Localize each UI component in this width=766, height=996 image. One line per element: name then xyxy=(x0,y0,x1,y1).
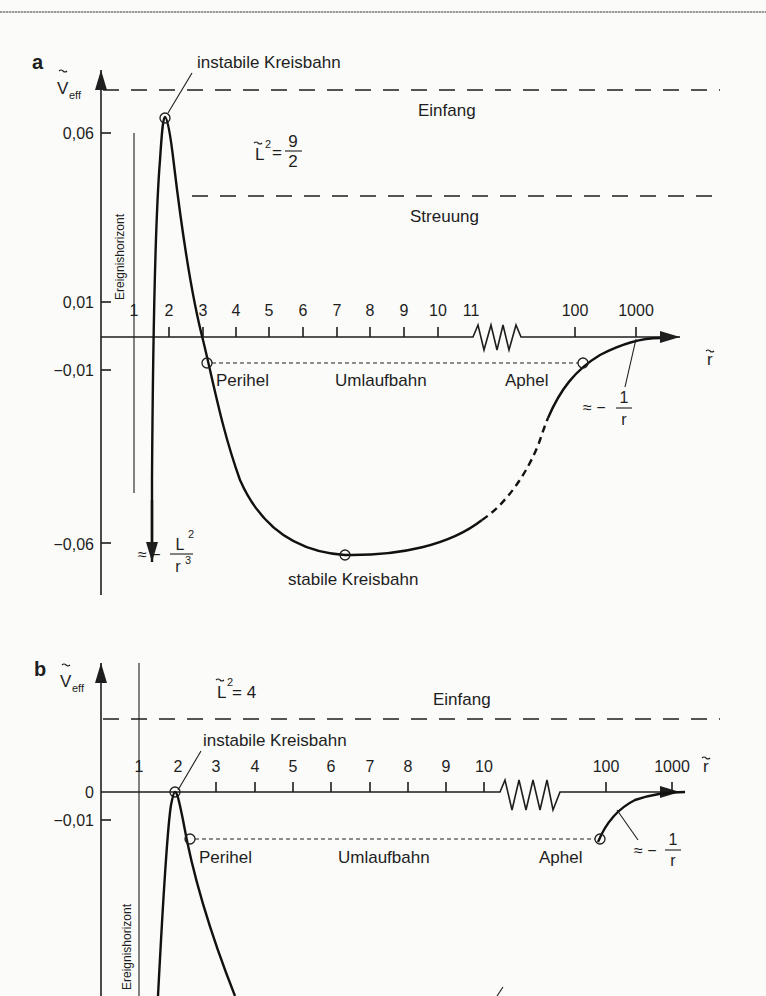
svg-text:0,01: 0,01 xyxy=(63,294,94,311)
panel-a-event-horizon-label: Ereignishorizont xyxy=(113,213,127,300)
svg-text:3: 3 xyxy=(185,554,191,566)
svg-text:r: r xyxy=(670,852,676,869)
svg-text:1: 1 xyxy=(620,389,629,406)
panel-a-aphel-label: Aphel xyxy=(505,371,548,390)
svg-text:6: 6 xyxy=(327,758,336,775)
panel-a-stable-orbit-label: stabile Kreisbahn xyxy=(288,570,418,589)
tilde-icon xyxy=(59,70,67,72)
svg-text:3: 3 xyxy=(199,302,208,319)
effective-potential-figure: a V eff r 0,06 0,01 −0,01 −0,06 xyxy=(0,0,766,996)
svg-text:−0,01: −0,01 xyxy=(54,362,95,379)
panel-b-capture-label: Einfang xyxy=(433,690,491,709)
svg-text:1000: 1000 xyxy=(618,302,654,319)
panel-b-potential-curve xyxy=(158,792,235,996)
panel-b-orbit-label: Umlaufbahn xyxy=(338,848,430,867)
panel-a-y-axis-label: V eff xyxy=(57,70,82,101)
panel-b-label: b xyxy=(34,658,46,680)
svg-text:V: V xyxy=(57,79,69,98)
panel-b-x-ticks: 1 2 3 4 5 6 7 8 9 10 100 1000 xyxy=(135,758,690,792)
svg-text:10: 10 xyxy=(429,302,447,319)
svg-text:6: 6 xyxy=(299,302,308,319)
svg-text:1000: 1000 xyxy=(654,758,690,775)
svg-text:8: 8 xyxy=(404,758,413,775)
panel-b-y-ticks: 0 −0,01 xyxy=(54,784,111,829)
svg-text:4: 4 xyxy=(251,758,260,775)
panel-a-capture-label: Einfang xyxy=(418,101,476,120)
panel-b-aphel-label: Aphel xyxy=(539,848,582,867)
svg-text:≈ −: ≈ − xyxy=(138,546,161,563)
svg-text:−0,01: −0,01 xyxy=(54,812,95,829)
svg-text:9: 9 xyxy=(288,132,297,151)
svg-text:10: 10 xyxy=(475,758,493,775)
svg-text:r: r xyxy=(175,558,181,575)
svg-text:1: 1 xyxy=(669,831,678,848)
svg-text:7: 7 xyxy=(333,302,342,319)
panel-b: b V eff r 0 −0,01 1 2 xyxy=(34,658,720,996)
svg-text:eff: eff xyxy=(72,682,85,694)
panel-a-far-asymptote-label: ≈ − 1 r xyxy=(583,339,636,428)
panel-a-x-axis xyxy=(101,325,680,350)
svg-text:−0,06: −0,06 xyxy=(54,536,95,553)
svg-text:11: 11 xyxy=(463,302,480,319)
panel-b-partial-mark xyxy=(497,987,503,996)
panel-a-label: a xyxy=(32,51,44,73)
panel-b-far-asymptote-label: ≈ − 1 r xyxy=(617,810,681,869)
svg-text:= 4: = 4 xyxy=(232,683,256,702)
panel-a-x-axis-label: r xyxy=(707,350,713,369)
svg-text:100: 100 xyxy=(593,758,620,775)
panel-b-event-horizon-label: Ereignishorizont xyxy=(120,903,134,990)
svg-text:2: 2 xyxy=(188,528,194,540)
svg-text:L: L xyxy=(176,536,185,553)
svg-text:2: 2 xyxy=(165,302,174,319)
svg-text:4: 4 xyxy=(232,302,241,319)
svg-text:100: 100 xyxy=(562,302,589,319)
svg-text:V: V xyxy=(60,672,72,691)
svg-text:3: 3 xyxy=(212,758,221,775)
panel-b-x-axis xyxy=(101,780,680,810)
panel-a-dashed-curve xyxy=(482,418,548,520)
svg-text:r: r xyxy=(621,411,627,428)
svg-text:7: 7 xyxy=(366,758,375,775)
panel-b-angular-momentum-label: L 2 = 4 xyxy=(216,676,256,702)
panel-a-near-asymptote-label: ≈ − L 2 r 3 xyxy=(138,528,194,575)
svg-text:L: L xyxy=(255,145,264,164)
panel-a-y-ticks: 0,06 0,01 −0,01 −0,06 xyxy=(54,125,111,553)
svg-text:8: 8 xyxy=(366,302,375,319)
panel-b-perihel-label: Perihel xyxy=(199,848,252,867)
svg-text:5: 5 xyxy=(265,302,274,319)
svg-text:5: 5 xyxy=(289,758,298,775)
svg-text:eff: eff xyxy=(69,89,82,101)
svg-text:≈ −: ≈ − xyxy=(634,842,657,859)
svg-text:9: 9 xyxy=(400,302,409,319)
panel-a-perihel-label: Perihel xyxy=(216,371,269,390)
svg-text:≈ −: ≈ − xyxy=(583,399,606,416)
panel-a-scattering-label: Streuung xyxy=(410,207,479,226)
panel-a-x-ticks: 1 2 3 4 5 6 7 8 9 10 11 100 1000 xyxy=(130,302,654,337)
panel-a: a V eff r 0,06 0,01 −0,01 −0,06 xyxy=(32,51,720,595)
panel-a-angular-momentum-label: L 2 = 9 2 xyxy=(254,132,302,171)
svg-text:0: 0 xyxy=(85,784,94,801)
panel-a-unstable-orbit-label: instabile Kreisbahn xyxy=(197,53,341,72)
svg-text:2: 2 xyxy=(174,758,183,775)
svg-text:=: = xyxy=(272,143,282,162)
panel-a-orbit-label: Umlaufbahn xyxy=(335,371,427,390)
svg-text:9: 9 xyxy=(442,758,451,775)
svg-text:2: 2 xyxy=(265,138,271,150)
panel-b-y-axis-label: V eff xyxy=(60,664,85,694)
panel-b-unstable-orbit-label: instabile Kreisbahn xyxy=(203,731,347,750)
svg-text:0,06: 0,06 xyxy=(63,125,94,142)
panel-b-x-axis-label: r xyxy=(703,757,709,776)
panel-a-potential-curve xyxy=(152,117,482,555)
svg-text:2: 2 xyxy=(288,152,297,171)
tilde-icon xyxy=(62,664,70,666)
svg-text:L: L xyxy=(217,683,226,702)
